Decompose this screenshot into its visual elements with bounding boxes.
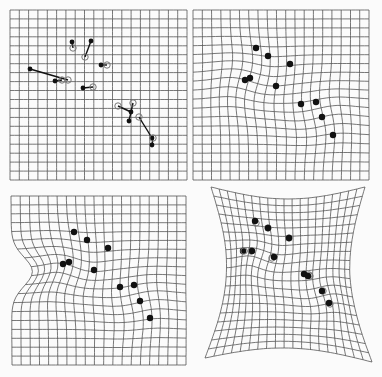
grid-column-line [137,196,143,365]
grid-column-line [359,10,360,180]
grid-row-line [193,78,369,87]
grid-column-line [211,10,213,180]
grid-row-line [226,275,350,281]
target-landmark-marker [252,218,258,224]
grid-column-line [157,196,161,365]
grid-column-line [293,10,297,180]
grid-column-line [254,10,262,180]
target-landmark-marker [313,99,319,105]
grid-row-line [25,282,185,289]
grid-row-line [193,45,369,47]
grid-row-line [224,294,352,299]
grid-column-line [202,10,203,180]
grid-column-line [20,196,38,365]
grid-row-line [226,256,350,264]
target-landmark-marker [84,237,90,243]
grid-column-line [329,10,335,180]
grid-row-line [220,312,357,316]
target-landmark-marker [249,248,255,254]
grid-row-line [13,239,186,243]
panel-bottom-left [11,196,186,365]
grid-column-line [147,196,152,365]
grid-column-line [74,196,82,365]
target-landmark-marker [147,315,153,321]
panel-bottom-right [205,187,372,362]
target-landmark-marker [137,298,143,304]
grid-column-line [103,196,106,365]
grid-row-line [222,303,354,306]
grid-column-line [349,10,351,180]
displacement-vector [30,69,68,80]
grid-row-line [227,265,350,272]
grid-column-line [236,10,243,180]
grid-column-line [205,187,227,358]
target-landmark-marker [89,39,94,44]
grid-column-line [310,10,316,180]
target-landmark-marker [99,63,104,68]
target-landmark-marker [66,259,72,265]
grid-column-line [265,198,272,349]
grid-column-line [219,10,222,180]
target-landmark-marker [71,229,77,235]
target-landmark-marker [305,273,311,279]
grid-row-line [193,69,369,77]
grid-column-line [313,197,320,351]
grid-row-line [205,348,372,362]
target-landmark-marker [70,40,75,45]
panel-top-right [193,10,369,180]
target-landmark-marker [330,132,336,138]
grid-row-line [31,263,186,271]
target-landmark-marker [286,235,292,241]
grid-column-line [258,197,265,349]
grid-row-line [218,320,360,326]
target-landmark-marker [253,45,259,51]
grid-column-line [245,10,253,180]
target-landmark-marker [53,79,58,84]
grid-column-line [48,196,58,365]
grid-column-line [291,199,293,348]
panel-top-left [10,10,187,180]
grid-column-line [167,196,169,365]
target-landmark-marker [117,284,123,290]
grid-row-line [193,53,369,57]
grid-column-line [273,199,279,349]
grid-column-line [128,196,134,365]
grid-row-line [193,36,369,37]
target-landmark-marker [273,83,279,89]
target-landmark-marker [326,300,332,306]
target-landmark-marker [247,75,253,81]
grid-column-line [320,10,326,180]
grid-row-line [193,162,369,163]
grid-column-line [120,196,124,365]
grid-row-line [12,347,186,348]
target-landmark-marker [81,86,86,91]
grid-row-line [17,247,186,253]
grid-row-line [11,222,186,223]
target-landmark-marker [131,282,137,288]
grid-column-line [284,10,287,180]
target-landmark-marker [265,225,271,231]
grid-column-line [112,196,115,365]
grid-column-line [282,199,286,348]
grid-row-line [18,291,186,298]
target-landmark-marker [298,101,304,107]
target-landmark-marker [150,143,155,148]
grid-column-line [302,10,307,180]
target-landmark-marker [287,61,293,67]
grid-column-line [83,196,89,365]
grid-column-line [176,196,177,365]
target-landmark-marker [271,254,277,260]
grid-column-line [339,10,343,180]
grid-column-line [228,10,233,180]
target-landmark-marker [319,114,325,120]
grid-row-line [225,285,351,290]
grid-column-line [56,196,65,365]
grid-column-line [65,196,74,365]
target-landmark-marker [265,53,271,59]
grid-row-line [193,61,369,67]
grid-column-line [11,196,32,365]
grid-row-line [12,231,186,233]
target-landmark-marker [60,261,66,267]
target-landmark-marker [127,119,132,124]
landmark-warp-figure [0,0,382,377]
